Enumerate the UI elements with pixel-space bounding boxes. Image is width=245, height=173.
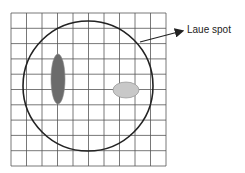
grid bbox=[11, 13, 166, 166]
arrow-icon bbox=[140, 31, 182, 42]
spots bbox=[51, 54, 139, 104]
laue-spot-label: Laue spot bbox=[187, 24, 231, 35]
elongated-spot bbox=[51, 54, 65, 104]
oval-spot bbox=[113, 82, 139, 98]
